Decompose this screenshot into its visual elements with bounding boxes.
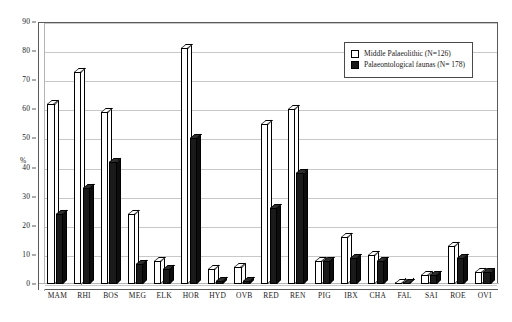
y-axis-tick-label: 50 (22, 135, 30, 143)
bar (101, 112, 108, 284)
bar-face (83, 188, 90, 284)
bar-group (101, 22, 117, 284)
bar (270, 208, 277, 284)
y-axis-tick-mark (32, 109, 36, 110)
bar-face (341, 237, 348, 284)
bar (350, 258, 357, 284)
bar-face (296, 173, 303, 284)
y-axis-tick-label: 20 (22, 222, 30, 230)
bar-side (330, 256, 334, 284)
bar-face (315, 261, 322, 284)
bar-face (128, 214, 135, 284)
bar-side (117, 157, 121, 284)
bar-face (190, 138, 197, 284)
x-axis-tick-label: HYD (209, 292, 226, 300)
bar (208, 269, 215, 284)
bar-face (368, 255, 375, 284)
bar-group (261, 22, 277, 284)
x-axis-tick-label: CHA (370, 292, 386, 300)
y-axis-tick-mark (32, 225, 36, 226)
y-axis-tick-mark (32, 254, 36, 255)
y-axis-tick-label: 80 (22, 47, 30, 55)
legend-swatch-icon (351, 50, 359, 58)
bar (475, 272, 482, 284)
bar (448, 246, 455, 284)
bar-side (277, 204, 281, 284)
bar (74, 72, 81, 285)
bar-group (208, 22, 224, 284)
bar (109, 162, 116, 284)
bar-face (430, 275, 437, 284)
bar-face (56, 214, 63, 284)
bar-face (483, 272, 490, 284)
y-axis-tick-label: 0 (26, 280, 30, 288)
x-axis-tick-label: ROE (450, 292, 466, 300)
bar (430, 275, 437, 284)
bar (128, 214, 135, 284)
y-axis-tick-mark (32, 22, 36, 23)
bar-face (288, 109, 295, 284)
bar-face (74, 72, 81, 285)
bar-chart: 9080706050403020100 % MAMRHIBOSMEGELKHOR… (0, 0, 512, 322)
bar-face (475, 272, 482, 284)
bar-group (234, 22, 250, 284)
bar (421, 275, 428, 284)
bar-face (234, 267, 241, 284)
x-axis-tick-label: OVI (478, 292, 492, 300)
x-axis-tick-label: MEG (129, 292, 146, 300)
bar-face (216, 281, 223, 284)
y-axis-tick-mark (32, 167, 36, 168)
bar (181, 48, 188, 284)
y-axis-tick-label: 30 (22, 193, 30, 201)
bar (234, 267, 241, 284)
x-axis-tick-label: MAM (48, 292, 67, 300)
y-axis-tick-label: 10 (22, 251, 30, 259)
bar-face (154, 261, 161, 284)
bar (136, 264, 143, 284)
bar (243, 281, 250, 284)
bar-face (181, 48, 188, 284)
bar-face (377, 261, 384, 284)
y-axis-tick-label: 70 (22, 76, 30, 84)
bar-face (47, 104, 54, 284)
bar (261, 124, 268, 284)
bar-group (128, 22, 144, 284)
legend-item-label: Middle Palaeolithic (N=126) (364, 50, 451, 58)
y-axis-tick-mark (32, 196, 36, 197)
bar-face (323, 261, 330, 284)
x-axis-tick-label: REN (290, 292, 306, 300)
bar-face (448, 246, 455, 284)
x-axis-tick-label: IBX (344, 292, 358, 300)
bar-side (197, 134, 201, 284)
legend-swatch-icon (351, 61, 359, 69)
bar (341, 237, 348, 284)
bar (163, 269, 170, 284)
x-axis-tick-label: FAL (397, 292, 411, 300)
legend-item: Palaeontological faunas (N= 178) (351, 61, 465, 69)
gridline (45, 285, 497, 286)
bar-group (74, 22, 90, 284)
bar (403, 283, 410, 284)
bar (216, 281, 223, 284)
x-axis-tick-label: SAI (425, 292, 438, 300)
bar-side (63, 210, 67, 284)
bar-face (421, 275, 428, 284)
bar-face (163, 269, 170, 284)
bar-face (350, 258, 357, 284)
bar-face (101, 112, 108, 284)
bar (154, 261, 161, 284)
bar (56, 214, 63, 284)
bar-face (136, 264, 143, 284)
x-axis-tick-label: RHI (77, 292, 91, 300)
bar (323, 261, 330, 284)
bar-face (270, 208, 277, 284)
y-axis-tick-mark (32, 51, 36, 52)
bar-face (457, 258, 464, 284)
bar (296, 173, 303, 284)
y-axis-tick-mark (32, 284, 36, 285)
bar-side (90, 184, 94, 284)
bar (83, 188, 90, 284)
bar-group (288, 22, 304, 284)
x-axis-tick-label: PIG (318, 292, 331, 300)
x-axis: MAMRHIBOSMEGELKHORHYDOVBREDRENPIGIBXCHAF… (44, 292, 498, 310)
